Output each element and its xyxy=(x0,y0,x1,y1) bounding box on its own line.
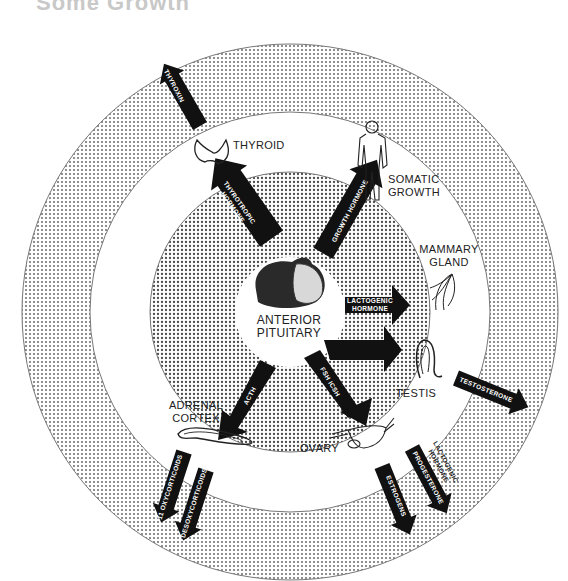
adrenal-label-2: CORTEX xyxy=(172,412,220,424)
testis-label: TESTIS xyxy=(396,387,436,399)
thyroid-label: THYROID xyxy=(233,139,285,151)
adrenal-label-1: ADRENAL xyxy=(169,399,223,411)
diagram-canvas: THYROTROPIC HORMONE GROWTH HORMONE LACTO… xyxy=(0,0,568,581)
center-label-2: PITUITARY xyxy=(257,326,321,340)
figure-title: Some Growth xyxy=(36,0,190,16)
endocrine-diagram: Some Growth THYROTROPIC xyxy=(0,0,568,581)
somatic-label-1: SOMATIC xyxy=(388,173,439,185)
mammary-label-2: GLAND xyxy=(429,256,468,268)
lactogenic-label-1: LACTOGENIC xyxy=(347,297,393,304)
lactogenic-label-2: HORMONE xyxy=(352,305,388,312)
ovary-label: OVARY xyxy=(300,442,339,454)
mammary-label-1: MAMMARY xyxy=(419,243,479,255)
somatic-label-2: GROWTH xyxy=(388,186,440,198)
anterior-pituitary: ANTERIOR PITUITARY xyxy=(255,258,324,340)
center-label-1: ANTERIOR xyxy=(257,313,321,327)
